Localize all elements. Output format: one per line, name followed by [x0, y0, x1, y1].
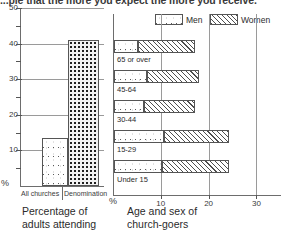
- tick-minor-5: [16, 168, 21, 169]
- row-label-65-or-over: 65 or over: [117, 55, 151, 64]
- row-label-under-15: Under 15: [117, 175, 148, 184]
- xtick-label-20: 20: [200, 200, 218, 208]
- bar-all-churches: [42, 138, 68, 186]
- left-chart-caption: Percentage of adults attending: [22, 205, 96, 230]
- bar-denomination: [68, 40, 99, 186]
- segment-women-45-64: [147, 70, 200, 83]
- right-caption-line-2: church-goers: [127, 218, 197, 231]
- segment-men-under-15: [114, 160, 162, 173]
- right-axis-unit-label: %: [109, 197, 117, 206]
- vgridline-30: [256, 14, 257, 195]
- right-chart-caption: Age and sex of church-goers: [127, 205, 197, 230]
- left-caption-line-1: Percentage of: [22, 205, 96, 218]
- tick-major-30: [16, 79, 22, 80]
- row-label-45-64: 45-64: [117, 85, 136, 94]
- tick-major-20: [16, 115, 22, 116]
- bar-30-44: [114, 100, 195, 113]
- bar-45-64: [114, 70, 199, 83]
- right-caption-line-1: Age and sex of: [127, 205, 197, 218]
- tick-minor-25: [16, 97, 21, 98]
- gridline-50: [20, 8, 104, 9]
- category-label-all-churches: All churches: [21, 189, 59, 198]
- segment-women-under-15: [162, 160, 229, 173]
- tick-major-50: [16, 8, 22, 9]
- segment-women-65-or-over: [138, 40, 195, 53]
- segment-men-15-29: [114, 130, 164, 143]
- left-axis-unit-label: %: [1, 178, 9, 188]
- legend-swatch-men: [155, 14, 183, 25]
- xtick-label-30: 30: [247, 200, 265, 208]
- segment-men-65-or-over: [114, 40, 138, 53]
- tick-minor-35: [16, 61, 21, 62]
- left-gridlines: [20, 8, 104, 186]
- tick-minor-45: [16, 26, 21, 27]
- legend-swatch-women: [210, 14, 238, 25]
- tick-minor-15: [16, 133, 21, 134]
- tick-major-10: [16, 150, 22, 151]
- bar-65-or-over: [114, 40, 195, 53]
- right-chart-legend: Men Women: [105, 8, 281, 30]
- bar-under-15: [114, 160, 229, 173]
- tick-major-40: [16, 44, 22, 45]
- row-label-30-44: 30-44: [117, 115, 136, 124]
- bar-15-29: [114, 130, 229, 143]
- segment-men-45-64: [114, 70, 147, 83]
- chart-percentage-adults-attending: 50 40 30 20 10: [0, 8, 104, 190]
- cutoff-running-text: ...ple that the more you expect the more…: [0, 0, 281, 6]
- figure-two-charts: ...ple that the more you expect the more…: [0, 0, 281, 235]
- row-label-15-29: 15-29: [117, 145, 136, 154]
- segment-women-15-29: [164, 130, 229, 143]
- segment-women-30-44: [144, 100, 196, 113]
- left-category-divider: [62, 186, 63, 200]
- segment-men-30-44: [114, 100, 144, 113]
- category-label-denomination: Denomination: [64, 189, 107, 198]
- chart-age-and-sex-of-church-goers: Men Women % 10 20 30 65 or over 45-64: [105, 8, 281, 190]
- left-caption-line-2: adults attending: [22, 218, 96, 231]
- legend-label-men: Men: [186, 15, 203, 25]
